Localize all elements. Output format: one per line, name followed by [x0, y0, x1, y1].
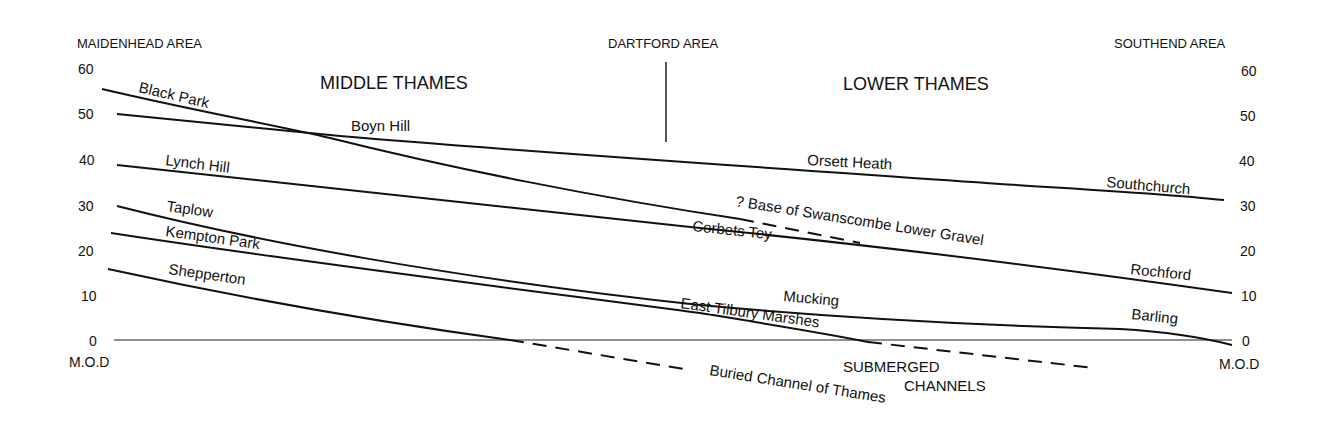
left-axis: 60 50 40 30 20 10 0 M.O.D [69, 61, 109, 370]
label-black-park: Black Park [137, 78, 211, 111]
right-tick-0: 0 [1242, 333, 1250, 349]
label-southchurch: Southchurch [1106, 173, 1191, 197]
kempton-park-east-tilbury-line [111, 233, 868, 342]
right-tick-50: 50 [1240, 108, 1256, 124]
label-channels: CHANNELS [904, 377, 986, 394]
label-mucking: Mucking [783, 287, 840, 309]
left-tick-20: 20 [78, 243, 94, 259]
left-tick-0: 0 [89, 333, 97, 349]
label-boyn-hill: Boyn Hill [351, 117, 410, 134]
label-orsett-heath: Orsett Heath [807, 151, 893, 172]
left-datum-label: M.O.D [69, 354, 109, 370]
left-tick-30: 30 [78, 198, 94, 214]
label-barling: Barling [1131, 305, 1179, 327]
right-tick-60: 60 [1241, 63, 1257, 79]
thames-terrace-diagram: MAIDENHEAD AREA DARTFORD AREA SOUTHEND A… [0, 0, 1341, 448]
right-tick-40: 40 [1239, 153, 1255, 169]
right-axis: 60 50 40 30 20 10 0 M.O.D [1219, 63, 1259, 372]
lower-thames-title: LOWER THAMES [843, 74, 989, 94]
left-tick-60: 60 [78, 61, 94, 77]
right-tick-10: 10 [1241, 288, 1257, 304]
right-tick-30: 30 [1240, 198, 1256, 214]
buried-channel-dashed-line [510, 340, 690, 370]
label-corbets-tey: Corbets Tey [692, 217, 774, 242]
lynch-hill-corbets-tey-line [117, 165, 1232, 293]
southend-area-label: SOUTHEND AREA [1114, 36, 1226, 51]
middle-thames-title: MIDDLE THAMES [320, 73, 468, 93]
label-submerged: SUBMERGED [843, 358, 940, 375]
label-swanscombe: ? Base of Swanscombe Lower Gravel [735, 192, 986, 248]
left-tick-50: 50 [78, 106, 94, 122]
left-tick-10: 10 [81, 288, 97, 304]
right-datum-label: M.O.D [1219, 356, 1259, 372]
left-tick-40: 40 [79, 152, 95, 168]
taplow-mucking-line [117, 206, 1232, 345]
label-taplow: Taplow [166, 197, 215, 220]
dartford-area-label: DARTFORD AREA [608, 36, 719, 51]
maidenhead-area-label: MAIDENHEAD AREA [77, 36, 202, 51]
right-tick-20: 20 [1240, 243, 1256, 259]
